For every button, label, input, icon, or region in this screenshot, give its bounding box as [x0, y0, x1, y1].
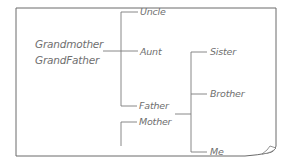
grandmother-label: Grandmother — [35, 39, 103, 50]
paper-curl-icon — [262, 146, 276, 154]
grandfather-label: GrandFather — [35, 55, 99, 66]
father-label: Father — [139, 101, 169, 111]
grandparents-connector — [103, 12, 138, 106]
mother-label: Mother — [139, 117, 171, 127]
paper-border — [16, 8, 276, 156]
parents-connector — [175, 52, 207, 152]
aunt-label: Aunt — [140, 47, 161, 57]
sister-label: Sister — [210, 47, 236, 57]
family-tree-diagram: Grandmother GrandFather Uncle Aunt Fathe… — [0, 0, 293, 163]
brother-label: Brother — [210, 89, 244, 99]
mother-connector — [121, 122, 137, 146]
me-label: Me — [210, 147, 224, 157]
diagram-lines — [0, 0, 293, 163]
uncle-label: Uncle — [140, 7, 166, 17]
